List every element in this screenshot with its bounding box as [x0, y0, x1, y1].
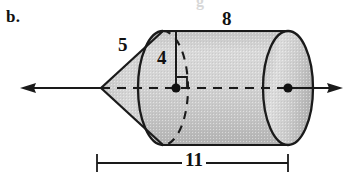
geometry-figure: g b. 5 4 8 11	[0, 0, 349, 176]
axis-arrow-left-icon	[20, 83, 101, 93]
slant-height-label: 5	[118, 35, 128, 54]
center-point-dot-icon	[283, 83, 292, 92]
cylinder-length-label: 8	[222, 9, 232, 28]
composite-solid-drawing	[0, 0, 349, 176]
center-point-dot-icon	[171, 83, 180, 92]
total-length-label: 11	[182, 150, 206, 169]
part-letter-label: b.	[6, 8, 20, 25]
cropped-text-above: g	[196, 0, 204, 9]
radius-label: 4	[157, 48, 167, 67]
axis-arrow-right-icon	[327, 83, 343, 93]
